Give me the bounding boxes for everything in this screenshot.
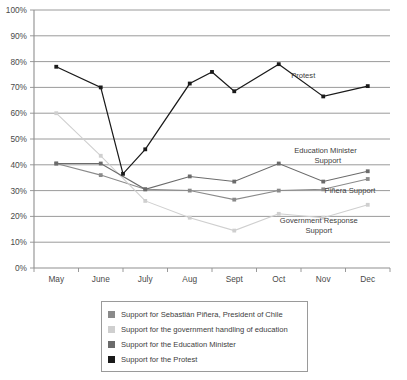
chart-annotation-label: Piñera Support (325, 186, 377, 195)
series-marker (99, 162, 103, 166)
series-line (56, 113, 368, 230)
series-marker (232, 180, 236, 184)
chart-annotation-label: Support (305, 226, 332, 235)
x-axis-tick-label: June (92, 274, 110, 284)
chart-legend: Support for Sebastián Piñera, President … (101, 301, 308, 372)
series-marker (99, 86, 103, 90)
y-axis-tick-label: 90% (10, 31, 27, 41)
series-marker (232, 229, 236, 233)
series-marker (143, 187, 147, 191)
series-marker (188, 189, 192, 193)
series-marker (232, 198, 236, 202)
y-axis-tick-label: 50% (10, 134, 27, 144)
series-marker (99, 154, 103, 158)
legend-item[interactable]: Support for Sebastián Piñera, President … (108, 307, 307, 322)
series-marker (54, 111, 58, 115)
x-axis-tick-label: Dec (360, 274, 375, 284)
gridlines-group (34, 10, 390, 242)
x-axis-labels-group: MayJuneJulyAugSeptOctNovDec (48, 274, 375, 284)
chart-annotation-label: Support (314, 156, 341, 165)
series-marker (99, 173, 103, 177)
series-marker (366, 169, 370, 173)
legend-swatch-icon (108, 326, 115, 333)
y-axis-tick-label: 60% (10, 108, 27, 118)
y-axis-tick-label: 0% (15, 263, 28, 273)
series-marker (321, 95, 325, 99)
y-axis-tick-label: 80% (10, 57, 27, 67)
series-marker (188, 216, 192, 220)
chart-annotation-label: Education Minister (294, 146, 357, 155)
chart-plot-area: 100%90%80%70%60%50%40%30%20%10%0% MayJun… (0, 0, 407, 295)
series-marker (366, 203, 370, 207)
series-line (56, 164, 368, 190)
legend-item[interactable]: Support for the government handling of e… (108, 322, 307, 337)
series-marker (143, 147, 147, 151)
legend-swatch-icon (108, 341, 115, 348)
y-axis-tick-label: 40% (10, 160, 27, 170)
series-marker (121, 172, 125, 176)
legend-item-label: Support for the government handling of e… (121, 325, 288, 334)
series-line (56, 164, 368, 200)
line-chart-figure: 100%90%80%70%60%50%40%30%20%10%0% MayJun… (0, 0, 407, 380)
legend-item-label: Support for the Education Minister (121, 340, 236, 349)
chart-annotation-label: Government Response (280, 216, 358, 225)
chart-annotation-label: Protest (291, 71, 316, 80)
legend-item[interactable]: Support for the Protest (108, 352, 307, 367)
series-marker (366, 84, 370, 88)
series-marker (321, 180, 325, 184)
y-axis-tick-label: 100% (6, 5, 28, 15)
x-axis-tick-label: Aug (182, 274, 197, 284)
series-marker (277, 62, 281, 66)
series-marker (143, 199, 147, 203)
legend-swatch-icon (108, 311, 115, 318)
legend-swatch-icon (108, 356, 115, 363)
y-axis-tick-label: 10% (10, 237, 27, 247)
y-axis-tick-label: 30% (10, 186, 27, 196)
series-marker (232, 89, 236, 93)
x-axis-tick-label: Oct (272, 274, 286, 284)
x-axis-tick-label: Nov (316, 274, 332, 284)
series-marker (366, 177, 370, 181)
series-marker (188, 175, 192, 179)
legend-item[interactable]: Support for the Education Minister (108, 337, 307, 352)
series-marker (277, 162, 281, 166)
y-axis-ticks-group (30, 10, 34, 268)
x-axis-tick-label: May (48, 274, 65, 284)
series-marker (54, 65, 58, 69)
x-axis-ticks-group (34, 268, 390, 272)
series-marker (210, 70, 214, 74)
legend-item-label: Support for Sebastián Piñera, President … (121, 310, 283, 319)
y-axis-tick-label: 20% (10, 211, 27, 221)
series-marker (188, 82, 192, 86)
x-axis-tick-label: July (138, 274, 154, 284)
y-axis-labels-group: 100%90%80%70%60%50%40%30%20%10%0% (6, 5, 28, 273)
series-marker (54, 162, 58, 166)
y-axis-tick-label: 70% (10, 82, 27, 92)
x-axis-tick-label: Sept (226, 274, 244, 284)
legend-item-label: Support for the Protest (121, 355, 197, 364)
series-marker (277, 189, 281, 193)
